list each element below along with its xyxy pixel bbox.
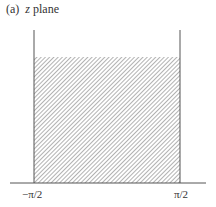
strip-diagram [0,0,216,207]
hatched-region [34,57,180,183]
left-bound-label: −π/2 [22,188,42,200]
right-bound-label: π/2 [174,188,188,200]
